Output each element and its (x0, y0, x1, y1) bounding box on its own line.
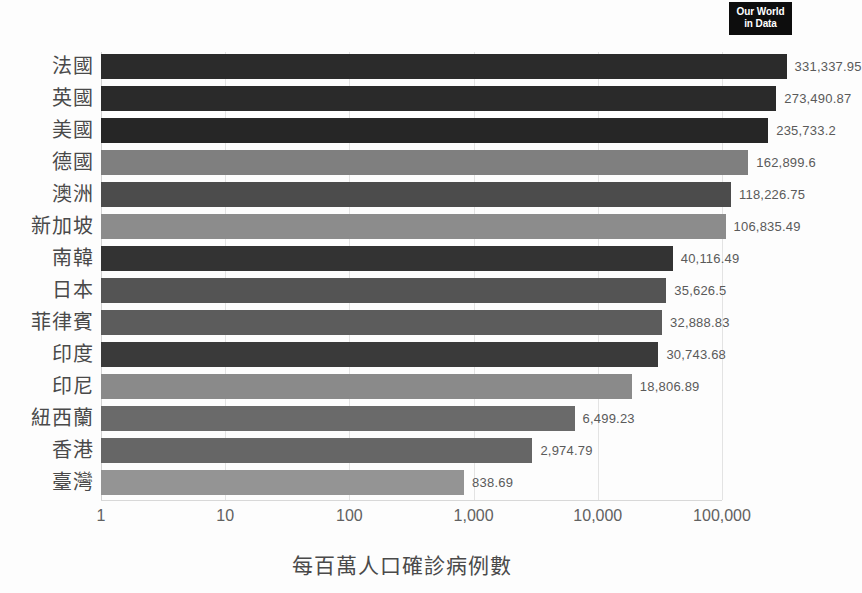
bar-row[interactable]: 英國273,490.87 (0, 84, 804, 116)
bar-row[interactable]: 日本35,626.5 (0, 276, 804, 308)
bar-value-label: 106,835.49 (734, 216, 801, 237)
bar[interactable] (101, 54, 787, 79)
bar-row[interactable]: 菲律賓32,888.83 (0, 308, 804, 340)
bar-category-label: 紐西蘭 (0, 404, 94, 432)
bar[interactable] (101, 214, 726, 239)
x-axis: 1101001,00010,000100,000 (0, 500, 804, 530)
bar-category-label: 印度 (0, 340, 94, 368)
bar-value-label: 32,888.83 (670, 312, 730, 333)
bar-rows: 法國331,337.95英國273,490.87美國235,733.2德國162… (0, 52, 804, 500)
bar[interactable] (101, 310, 662, 335)
x-tick-label: 10 (216, 507, 234, 525)
bar[interactable] (101, 182, 731, 207)
bar-row[interactable]: 澳洲118,226.75 (0, 180, 804, 212)
bar-row[interactable]: 德國162,899.6 (0, 148, 804, 180)
x-tick-label: 100,000 (693, 507, 751, 525)
bar-category-label: 法國 (0, 52, 94, 80)
bar[interactable] (101, 342, 658, 367)
bar-value-label: 35,626.5 (674, 280, 726, 301)
bar[interactable] (101, 278, 666, 303)
bar-row[interactable]: 香港2,974.79 (0, 436, 804, 468)
bar-value-label: 331,337.95 (795, 56, 862, 77)
bar-value-label: 838.69 (472, 472, 513, 493)
bar[interactable] (101, 470, 464, 495)
bar-row[interactable]: 新加坡106,835.49 (0, 212, 804, 244)
bar-category-label: 英國 (0, 84, 94, 112)
bar-value-label: 235,733.2 (776, 120, 836, 141)
bar-value-label: 40,116.49 (681, 248, 740, 269)
bar-category-label: 日本 (0, 276, 94, 304)
x-tick-label: 1 (97, 507, 106, 525)
bar-value-label: 30,743.68 (666, 344, 726, 365)
bar[interactable] (101, 86, 776, 111)
bar-category-label: 香港 (0, 436, 94, 464)
bar-row[interactable]: 法國331,337.95 (0, 52, 804, 84)
bar-category-label: 澳洲 (0, 180, 94, 208)
bar-value-label: 162,899.6 (756, 152, 816, 173)
bar[interactable] (101, 150, 748, 175)
x-axis-title: 每百萬人口確診病例數 (0, 549, 804, 579)
x-tick-label: 100 (336, 507, 363, 525)
x-axis-line (101, 500, 722, 501)
bar-category-label: 南韓 (0, 244, 94, 272)
bar-category-label: 新加坡 (0, 212, 94, 240)
bar-category-label: 菲律賓 (0, 308, 94, 336)
bar-category-label: 美國 (0, 116, 94, 144)
bar-category-label: 印尼 (0, 372, 94, 400)
bar-category-label: 臺灣 (0, 468, 94, 496)
x-tick-label: 10,000 (573, 507, 622, 525)
bar-row[interactable]: 印尼18,806.89 (0, 372, 804, 404)
x-tick-label: 1,000 (454, 507, 494, 525)
bar-row[interactable]: 南韓40,116.49 (0, 244, 804, 276)
bar-value-label: 118,226.75 (739, 184, 805, 205)
bar-value-label: 6,499.23 (583, 408, 635, 429)
bar-category-label: 德國 (0, 148, 94, 176)
bar-row[interactable]: 美國235,733.2 (0, 116, 804, 148)
bar-value-label: 18,806.89 (640, 376, 700, 397)
bar-row[interactable]: 紐西蘭6,499.23 (0, 404, 804, 436)
bar[interactable] (101, 246, 673, 271)
bar-value-label: 273,490.87 (784, 88, 851, 109)
bar-row[interactable]: 臺灣838.69 (0, 468, 804, 500)
bar[interactable] (101, 406, 575, 431)
bar[interactable] (101, 438, 532, 463)
bar-value-label: 2,974.79 (540, 440, 592, 461)
bar-row[interactable]: 印度30,743.68 (0, 340, 804, 372)
bar[interactable] (101, 374, 632, 399)
bar[interactable] (101, 118, 768, 143)
